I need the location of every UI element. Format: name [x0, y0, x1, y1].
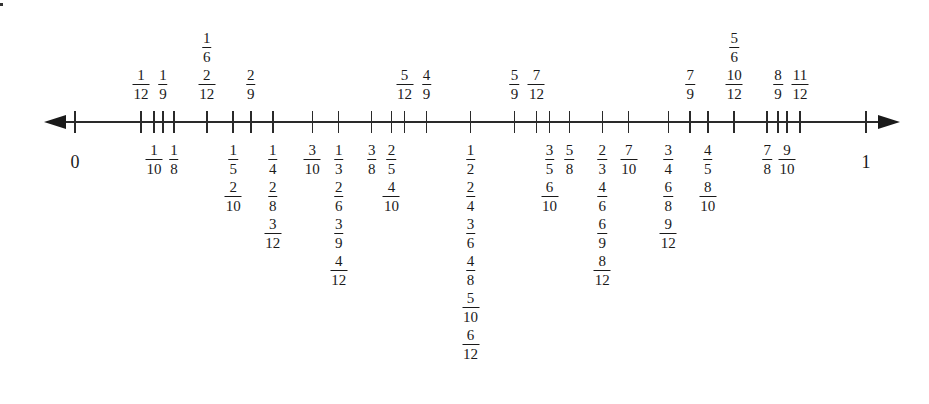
numerator: 2 [246, 68, 256, 83]
fraction-bar [660, 233, 677, 234]
denominator: 3 [334, 162, 344, 177]
denominator: 12 [792, 87, 809, 102]
stray-dot-mark [0, 3, 3, 6]
numerator: 4 [703, 143, 713, 158]
fraction-bar [304, 159, 321, 160]
tick-mark [777, 111, 779, 133]
numerator: 6 [598, 217, 608, 232]
tick-mark [865, 111, 867, 133]
fraction-label-below: 710 [620, 143, 637, 177]
numerator: 3 [664, 143, 674, 158]
denominator: 9 [246, 87, 256, 102]
tick-mark [153, 111, 155, 133]
numerator: 1 [466, 143, 476, 158]
denominator: 4 [664, 162, 674, 177]
tick-mark [173, 111, 175, 133]
denominator: 9 [422, 87, 432, 102]
fraction-label-below: 510 [462, 291, 479, 325]
tick-mark [733, 111, 735, 133]
fraction-bar [726, 84, 743, 85]
denominator: 10 [620, 162, 637, 177]
fraction-bar [383, 196, 400, 197]
numerator: 2 [228, 180, 238, 195]
fraction-label-below: 46 [598, 180, 608, 214]
fraction-label-below: 110 [146, 143, 163, 177]
denominator: 12 [594, 273, 611, 288]
fraction-label-below: 35 [545, 143, 555, 177]
arrow-right-icon [878, 115, 900, 129]
numerator: 9 [664, 217, 674, 232]
fraction-label-above: 89 [773, 68, 783, 102]
fraction-label-below: 410 [383, 180, 400, 214]
numerator: 2 [268, 180, 278, 195]
denominator: 12 [462, 347, 479, 362]
denominator: 8 [762, 162, 772, 177]
fraction-bar [792, 84, 809, 85]
fraction-bar [466, 196, 476, 197]
tick-mark [602, 111, 604, 133]
numerator: 2 [598, 143, 608, 158]
numerator: 1 [136, 68, 146, 83]
fraction-label-above: 29 [246, 68, 256, 102]
numerator: 8 [598, 254, 608, 269]
numerator: 11 [792, 68, 808, 83]
fraction-bar [246, 84, 256, 85]
fraction-bar [169, 159, 179, 160]
numerator: 6 [545, 180, 555, 195]
fraction-bar [202, 47, 212, 48]
denominator: 12 [330, 273, 347, 288]
tick-mark [628, 111, 630, 133]
denominator: 9 [598, 236, 608, 251]
denominator: 10 [541, 199, 558, 214]
fraction-label-below: 26 [334, 180, 344, 214]
denominator: 9 [334, 236, 344, 251]
tick-mark [404, 111, 406, 133]
denominator: 5 [228, 162, 238, 177]
denominator: 9 [158, 87, 168, 102]
fraction-bar [664, 159, 674, 160]
tick-mark [312, 111, 314, 133]
denominator: 9 [510, 87, 520, 102]
fraction-label-below: 14 [268, 143, 278, 177]
numerator: 3 [308, 143, 318, 158]
fraction-label-above: 79 [685, 68, 695, 102]
fraction-label-above: 1012 [726, 68, 743, 102]
fraction-label-below: 13 [334, 143, 344, 177]
fraction-label-below: 18 [169, 143, 179, 177]
axis-line [54, 121, 890, 123]
fraction-label-below: 412 [330, 254, 347, 288]
denominator: 12 [264, 236, 281, 251]
denominator: 2 [466, 162, 476, 177]
numerator: 4 [334, 254, 344, 269]
numerator: 6 [664, 180, 674, 195]
fraction-bar [594, 270, 611, 271]
fraction-bar [387, 159, 397, 160]
endpoint-label-one: 1 [862, 153, 871, 171]
arrow-left-icon [44, 115, 66, 129]
denominator: 12 [396, 87, 413, 102]
numerator: 5 [466, 291, 476, 306]
tick-mark [536, 111, 538, 133]
numerator: 4 [422, 68, 432, 83]
numerator: 2 [202, 68, 212, 83]
fraction-bar [541, 196, 558, 197]
fraction-bar [462, 307, 479, 308]
fraction-bar [268, 196, 278, 197]
denominator: 10 [304, 162, 321, 177]
tick-mark [162, 111, 164, 133]
fraction-bar [773, 84, 783, 85]
fraction-label-above: 49 [422, 68, 432, 102]
denominator: 6 [334, 199, 344, 214]
fraction-label-below: 210 [225, 180, 242, 214]
denominator: 10 [225, 199, 242, 214]
denominator: 10 [699, 199, 716, 214]
fraction-label-above: 59 [510, 68, 520, 102]
numerator: 1 [158, 68, 168, 83]
fraction-label-above: 112 [132, 68, 149, 102]
fraction-label-above: 16 [202, 31, 212, 65]
fraction-bar [264, 233, 281, 234]
fraction-label-below: 45 [703, 143, 713, 177]
fraction-label-above: 1112 [792, 68, 809, 102]
fraction-label-below: 39 [334, 217, 344, 251]
tick-mark [371, 111, 373, 133]
